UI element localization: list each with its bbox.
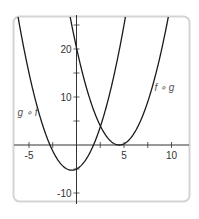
x-tick-label: -5 — [25, 150, 34, 161]
composite-function-chart: -55102010-10 g ∘ ff ∘ g — [0, 0, 199, 219]
x-tick-label: 5 — [121, 150, 127, 161]
label-g-of-f: g ∘ f — [18, 107, 39, 118]
label-f-of-g: f ∘ g — [154, 82, 174, 93]
y-tick-label: 20 — [60, 44, 72, 55]
y-tick-label: -10 — [57, 188, 72, 199]
y-tick-label: 10 — [60, 92, 72, 103]
x-tick-label: 10 — [166, 150, 178, 161]
